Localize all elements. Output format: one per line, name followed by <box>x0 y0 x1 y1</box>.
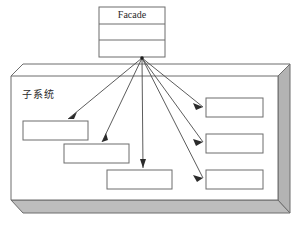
subsystem-box-1[interactable] <box>23 121 88 140</box>
subsystem-panel-right-face <box>278 64 290 213</box>
subsystem-panel-label: 子系统 <box>22 88 55 100</box>
subsystem-box-6[interactable] <box>206 170 263 189</box>
arrow-origin-hub <box>140 56 144 60</box>
facade-class-name: Facade <box>118 9 147 20</box>
subsystem-box-3[interactable] <box>107 170 172 189</box>
facade-pattern-diagram: 子系统 Facade <box>0 0 303 226</box>
subsystem-panel-bottom-face <box>11 200 290 213</box>
subsystem-box-4[interactable] <box>206 98 263 117</box>
subsystem-box-2[interactable] <box>64 144 129 163</box>
facade-class-box[interactable]: Facade <box>99 7 165 57</box>
subsystem-box-5[interactable] <box>206 134 263 153</box>
diagram-canvas: 子系统 Facade <box>0 0 303 226</box>
